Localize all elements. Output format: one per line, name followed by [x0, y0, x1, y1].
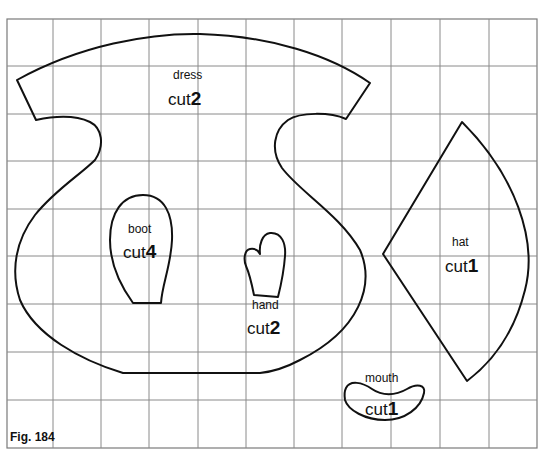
- hand-cut-count: 2: [270, 317, 281, 338]
- dress-label: dress: [173, 69, 202, 81]
- hand-cut-word: cut: [247, 319, 270, 338]
- hand-cut-instruction: cut2: [247, 318, 280, 337]
- boot-cut-instruction: cut4: [123, 242, 156, 261]
- dress-outline: [15, 34, 370, 373]
- hand-outline: [245, 233, 286, 297]
- boot-cut-count: 4: [146, 241, 157, 262]
- mouth-label: mouth: [365, 372, 398, 384]
- boot-label: boot: [128, 223, 151, 235]
- pattern-sheet: [0, 0, 551, 461]
- hat-cut-count: 1: [468, 255, 479, 276]
- mouth-cut-count: 1: [388, 398, 399, 419]
- dress-cut-count: 2: [191, 88, 202, 109]
- hat-label: hat: [452, 236, 469, 248]
- dress-cut-word: cut: [168, 90, 191, 109]
- mouth-cut-instruction: cut1: [365, 399, 398, 418]
- hat-cut-instruction: cut1: [445, 256, 478, 275]
- mouth-cut-word: cut: [365, 400, 388, 419]
- figure-label: Fig. 184: [10, 430, 55, 444]
- boot-cut-word: cut: [123, 243, 146, 262]
- dress-cut-instruction: cut2: [168, 89, 201, 108]
- hat-cut-word: cut: [445, 257, 468, 276]
- hand-label: hand: [252, 299, 279, 311]
